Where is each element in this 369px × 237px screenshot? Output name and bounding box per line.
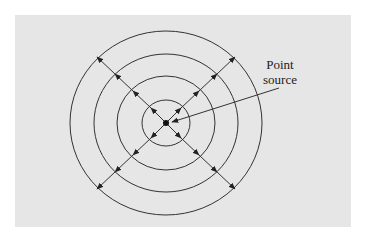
- point-source-label: Point source: [250, 57, 310, 87]
- label-line-2: source: [250, 72, 310, 87]
- ray-up-left: [151, 108, 166, 123]
- ray-down-right: [166, 123, 181, 138]
- wavefront-diagram: [0, 0, 369, 237]
- label-pointer: [172, 88, 279, 122]
- ray-up-right: [166, 108, 181, 123]
- label-line-1: Point: [250, 57, 310, 72]
- point-source: [163, 120, 169, 126]
- ray-down-left: [151, 123, 166, 138]
